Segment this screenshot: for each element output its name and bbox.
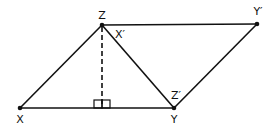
label-Xprime: X′ xyxy=(115,28,126,41)
right-angle-marker-left xyxy=(94,100,102,108)
label-Z: Z xyxy=(98,9,106,22)
label-Zprime: Z′ xyxy=(171,89,182,102)
point-Z xyxy=(100,23,105,28)
point-Yprime xyxy=(255,22,260,27)
segment-YYprime xyxy=(174,24,257,108)
label-Y: Y xyxy=(170,113,178,126)
right-angle-marker-right xyxy=(102,100,110,108)
segment-ZY xyxy=(102,25,174,108)
segment-XZ xyxy=(20,25,102,108)
segment-ZYprime xyxy=(102,24,257,25)
point-X xyxy=(18,106,23,111)
point-Y xyxy=(172,106,177,111)
label-Yprime: Y′ xyxy=(252,5,263,18)
label-X: X xyxy=(16,113,24,126)
geometry-diagram: Z X′ X Y Z′ Y′ xyxy=(0,0,276,128)
